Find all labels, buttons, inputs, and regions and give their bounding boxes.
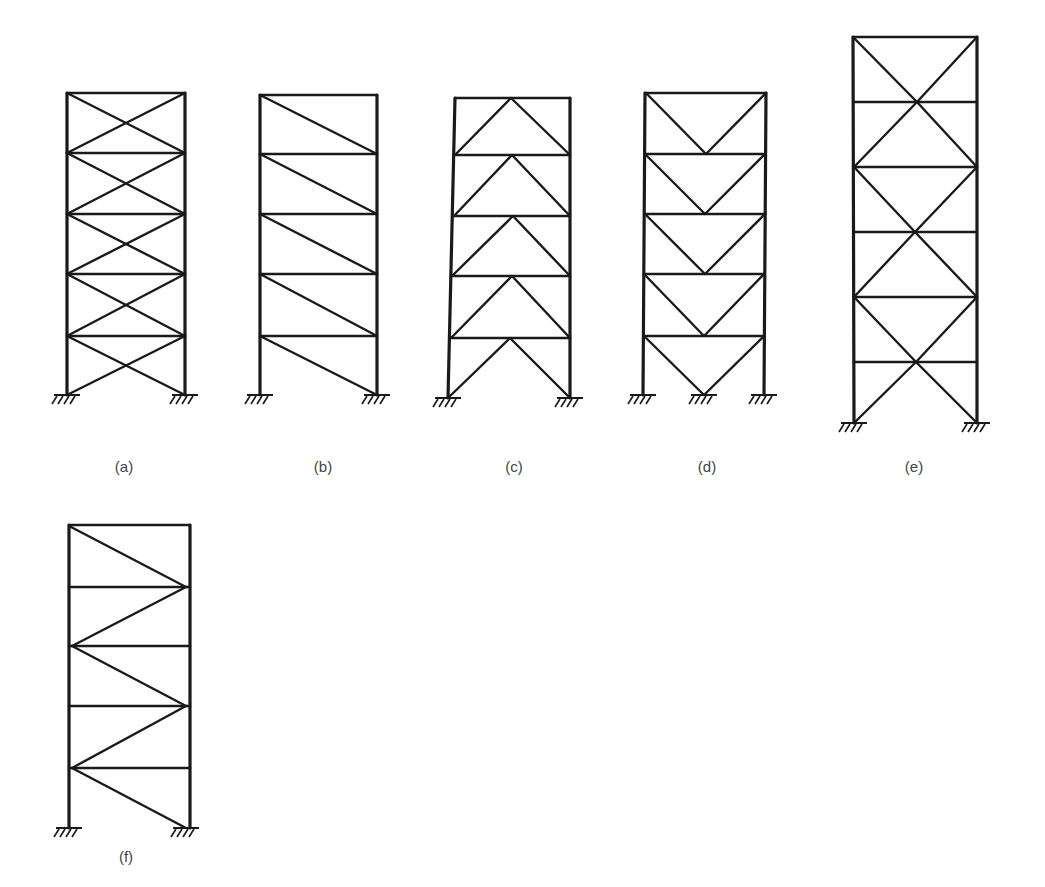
- ground-hatch: [368, 396, 373, 404]
- diagonal-brace: [916, 297, 977, 362]
- ground-hatch: [176, 396, 181, 404]
- diagonal-brace: [854, 167, 915, 232]
- diagonal-brace: [853, 37, 917, 102]
- frame-label-d: (d): [698, 458, 716, 475]
- ground-hatch: [189, 829, 194, 837]
- diagonal-brace: [512, 155, 570, 216]
- ground-hatch: [177, 829, 182, 837]
- diagonal-brace: [854, 362, 916, 423]
- column-left: [853, 37, 854, 423]
- fixed-support-icon: [433, 398, 461, 407]
- ground-hatch: [362, 396, 367, 404]
- ground-hatch: [251, 396, 256, 404]
- diagonal-brace: [916, 362, 977, 423]
- frame-b: [245, 95, 390, 404]
- ground-hatch: [380, 396, 385, 404]
- diagonal-brace: [72, 706, 186, 768]
- ground-hatch: [646, 396, 651, 404]
- diagonal-brace: [706, 93, 766, 154]
- ground-hatch: [72, 829, 77, 837]
- diagonal-brace: [71, 527, 186, 587]
- diagonal-brace: [644, 336, 704, 395]
- ground-hatch: [451, 399, 456, 407]
- ground-hatch: [962, 424, 967, 432]
- ground-hatch: [257, 396, 262, 404]
- diagonal-brace: [72, 646, 186, 706]
- diagonal-brace: [704, 274, 764, 336]
- diagonal-brace: [260, 214, 377, 274]
- ground-hatch: [640, 396, 645, 404]
- ground-hatch: [58, 396, 63, 404]
- diagonal-brace: [917, 102, 977, 167]
- ground-hatch: [749, 396, 754, 404]
- ground-hatch: [707, 396, 712, 404]
- frame-label-e: (e): [905, 458, 923, 475]
- frame-label-f: (f): [119, 848, 133, 865]
- diagonal-brace: [511, 98, 570, 155]
- diagonal-brace: [645, 154, 705, 214]
- diagonal-brace: [854, 297, 916, 362]
- ground-hatch: [839, 424, 844, 432]
- ground-hatch: [54, 829, 59, 837]
- fixed-support-icon: [245, 395, 273, 404]
- ground-hatch: [689, 396, 694, 404]
- ground-hatch: [968, 424, 973, 432]
- diagonal-brace: [260, 154, 377, 214]
- ground-hatch: [974, 424, 979, 432]
- diagonal-brace: [917, 37, 977, 102]
- diagonal-brace: [705, 214, 765, 274]
- diagonal-brace: [513, 216, 570, 276]
- diagonal-brace: [260, 95, 377, 154]
- ground-hatch: [182, 396, 187, 404]
- column-right: [764, 93, 766, 395]
- diagonal-brace: [448, 338, 510, 398]
- column-left: [448, 98, 455, 398]
- diagonal-brace: [646, 93, 706, 154]
- fixed-support-icon: [171, 828, 199, 837]
- frame-label-b: (b): [314, 458, 332, 475]
- ground-hatch: [573, 399, 578, 407]
- ground-hatch: [374, 396, 379, 404]
- ground-hatch: [263, 396, 268, 404]
- fixed-support-icon: [52, 395, 80, 404]
- diagonal-brace: [510, 338, 570, 398]
- frame-label-c: (c): [505, 458, 523, 475]
- diagonal-brace: [260, 336, 377, 395]
- diagonal-brace: [915, 232, 977, 297]
- ground-hatch: [66, 829, 71, 837]
- column-left: [643, 93, 645, 395]
- ground-hatch: [755, 396, 760, 404]
- ground-hatch: [52, 396, 57, 404]
- diagonal-brace: [645, 214, 705, 274]
- frame-d: [628, 93, 777, 404]
- ground-hatch: [171, 829, 176, 837]
- bracing-diagram-canvas: [0, 0, 1045, 887]
- ground-hatch: [845, 424, 850, 432]
- ground-hatch: [761, 396, 766, 404]
- ground-hatch: [188, 396, 193, 404]
- ground-hatch: [851, 424, 856, 432]
- ground-hatch: [445, 399, 450, 407]
- diagonal-brace: [72, 587, 186, 646]
- ground-hatch: [701, 396, 706, 404]
- ground-hatch: [634, 396, 639, 404]
- ground-hatch: [183, 829, 188, 837]
- ground-hatch: [628, 396, 633, 404]
- ground-hatch: [857, 424, 862, 432]
- ground-hatch: [567, 399, 572, 407]
- diagonal-brace: [854, 232, 915, 297]
- diagonal-brace: [854, 102, 917, 167]
- diagonal-brace: [915, 167, 977, 232]
- ground-hatch: [245, 396, 250, 404]
- fixed-support-icon: [362, 395, 390, 404]
- diagonal-brace: [451, 276, 512, 338]
- fixed-support-icon: [54, 828, 82, 837]
- ground-hatch: [439, 399, 444, 407]
- fixed-support-icon: [962, 423, 990, 432]
- frame-a: [52, 93, 198, 404]
- frame-c: [433, 98, 583, 407]
- diagonal-brace: [704, 336, 764, 395]
- fixed-support-icon: [170, 395, 198, 404]
- diagonal-brace: [260, 274, 377, 336]
- diagonal-brace: [455, 98, 511, 155]
